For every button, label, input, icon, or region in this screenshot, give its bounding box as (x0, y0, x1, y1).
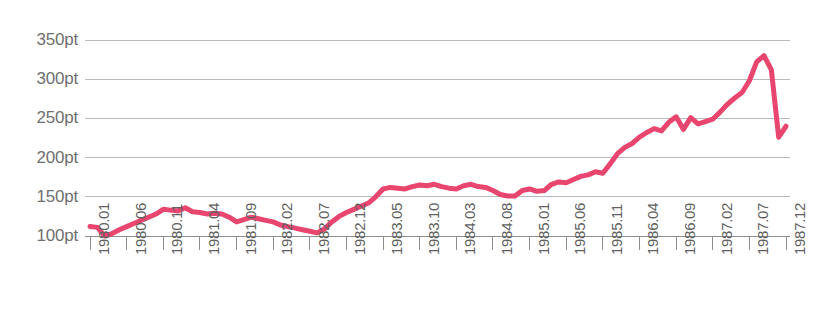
series-line (90, 56, 786, 236)
x-axis-ticks (90, 236, 786, 250)
gridlines (85, 40, 790, 236)
data-series (90, 56, 786, 236)
plot-area (0, 0, 820, 336)
line-chart: 100pt150pt200pt250pt300pt350pt 1980.0119… (0, 0, 820, 336)
